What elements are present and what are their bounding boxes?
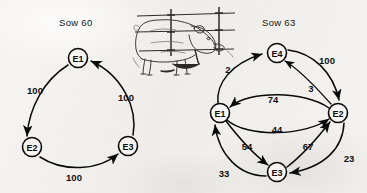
node-sow63-e3: E3 bbox=[268, 163, 287, 182]
edge-sow63-e1-e4 bbox=[218, 54, 262, 103]
edge-weight-sow63-e3-e1: 33 bbox=[219, 168, 230, 179]
node-sow63-e2: E2 bbox=[329, 104, 348, 123]
edge-weight-sow63-e2-e4: 3 bbox=[308, 83, 313, 94]
node-label-sow63-e3: E3 bbox=[271, 168, 282, 178]
node-label-sow63-e4: E4 bbox=[271, 49, 282, 59]
edge-weight-sow63-e1-e3: 54 bbox=[242, 141, 253, 152]
edge-weight-sow63-e2-e3: 23 bbox=[344, 153, 355, 164]
node-sow63-e4: E4 bbox=[268, 44, 287, 63]
node-sow63-e1: E1 bbox=[211, 104, 230, 123]
edge-sow63-e2-e1 bbox=[230, 95, 329, 108]
diagram-sow-63: E4 E1 E2 E3 2 100 3 74 44 54 67 23 33 bbox=[0, 0, 367, 193]
edge-weight-sow63-e1-e4: 2 bbox=[225, 64, 230, 75]
edge-weight-sow63-e3-e2: 67 bbox=[303, 141, 314, 152]
edge-weight-sow63-e4-e2: 100 bbox=[319, 55, 335, 66]
node-label-sow63-e2: E2 bbox=[332, 109, 343, 119]
edge-weight-sow63-e1-e2: 44 bbox=[272, 124, 283, 135]
figure-canvas: Sow 60 E1 E2 E3 100 100 100 bbox=[0, 0, 367, 193]
edge-weight-sow63-e2-e1: 74 bbox=[268, 94, 279, 105]
node-label-sow63-e1: E1 bbox=[214, 109, 225, 119]
